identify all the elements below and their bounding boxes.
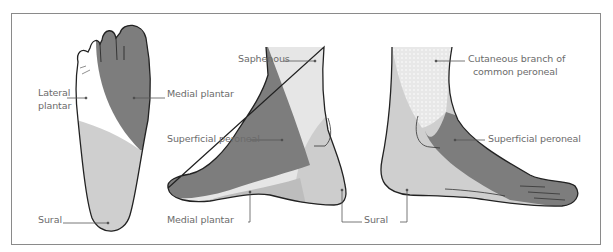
label-plantar-medial-plantar: Medial plantar (167, 88, 234, 100)
plantar-foot (60, 20, 160, 240)
label-lateral-plantar-line2: plantar (38, 100, 71, 112)
label-lateral-superficial-peroneal: Superficial peroneal (488, 133, 581, 145)
label-cutaneous-common-peroneal-line1: Cutaneous branch of (468, 53, 565, 65)
label-saphenous: Saphenous (238, 53, 290, 65)
label-plantar-sural: Sural (38, 214, 62, 226)
foot-nerve-diagram (0, 0, 613, 252)
label-lateral-plantar-line1: Lateral (38, 87, 70, 99)
label-medial-superficial-peroneal: Superficial peroneal (167, 133, 260, 145)
label-medial-medial-plantar: Medial plantar (167, 214, 234, 226)
label-medial-sural: Sural (364, 214, 388, 226)
label-cutaneous-common-peroneal-line2: common peroneal (473, 66, 558, 78)
